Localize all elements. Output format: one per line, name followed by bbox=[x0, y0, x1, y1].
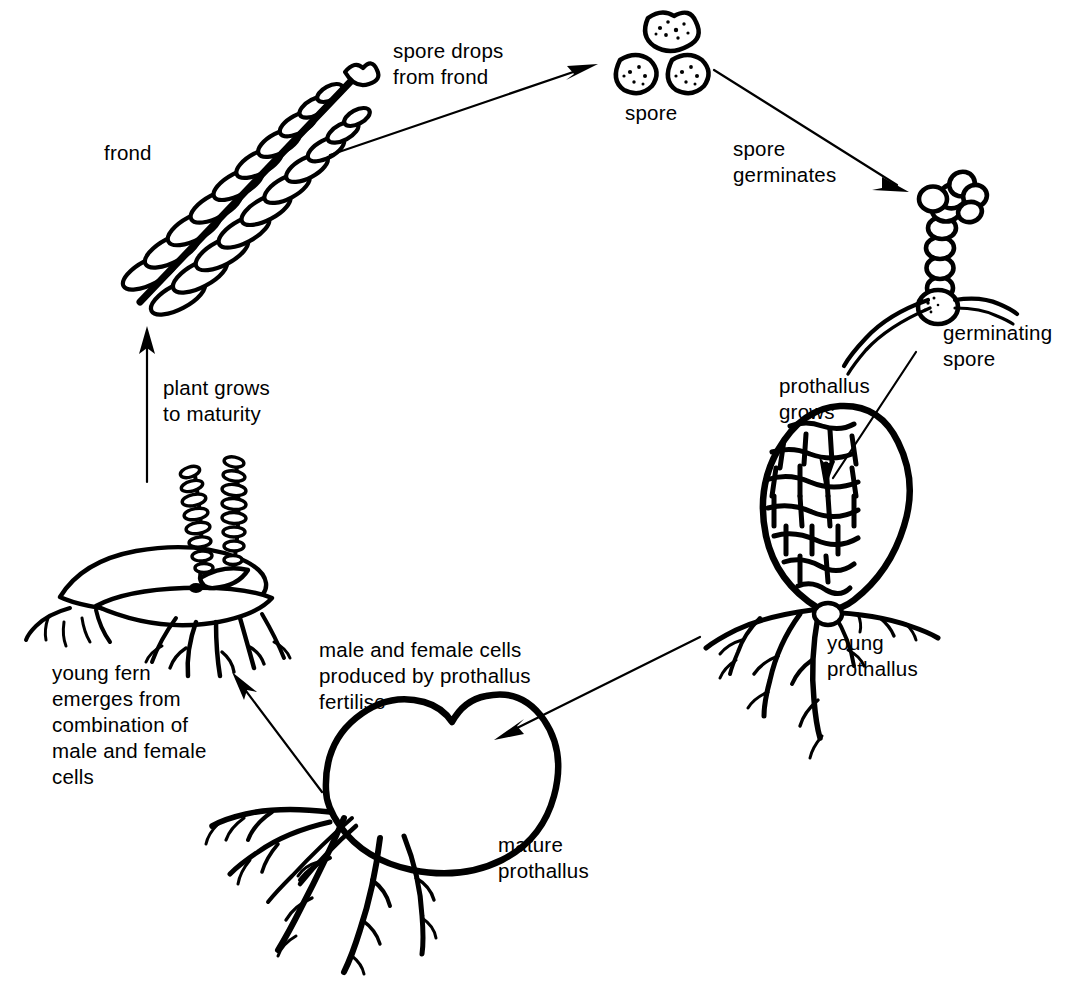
spore-upper bbox=[645, 12, 699, 51]
label-mature-prothallus-line2: prothallus bbox=[498, 859, 589, 882]
label-plant-grows-line2: to maturity bbox=[163, 402, 261, 425]
arrow-plant-grows bbox=[139, 326, 155, 482]
label-fertilise-line3: fertilise bbox=[319, 690, 386, 713]
label-spore-drops-line2: from frond bbox=[393, 65, 488, 88]
young-fern-illustration bbox=[26, 455, 290, 676]
frond-illustration bbox=[118, 63, 379, 321]
label-germinating-spore-line2: spore bbox=[943, 347, 995, 370]
label-spore-germinates-line2: germinates bbox=[733, 163, 836, 186]
label-plant-grows-to-maturity: plant growsto maturity bbox=[163, 375, 270, 427]
label-young-fern-line5: cells bbox=[52, 765, 94, 788]
label-fertilise-line1: male and female cells bbox=[319, 638, 521, 661]
label-young-fern-line3: combination of bbox=[52, 713, 188, 736]
label-young-prothallus-line1: young bbox=[827, 631, 884, 654]
label-germinating-spore-line1: germinating bbox=[943, 321, 1052, 344]
young-prothallus-illustration bbox=[706, 406, 938, 758]
label-spore-germinates-line1: spore bbox=[733, 137, 785, 160]
germinating-spore-body bbox=[918, 290, 958, 324]
young-fern-growing-point bbox=[189, 583, 203, 593]
spore-lower-left bbox=[616, 55, 657, 93]
label-mature-prothallus-line1: mature bbox=[498, 833, 563, 856]
young-prothallus-foot bbox=[814, 603, 842, 625]
germinating-spore-cell-chain bbox=[919, 167, 990, 299]
label-young-fern-line1: young fern bbox=[52, 661, 151, 684]
arrow-young-fern-emerges bbox=[232, 672, 322, 792]
label-spore-drops-from-frond: spore dropsfrom frond bbox=[393, 38, 503, 90]
label-fertilise-line2: produced by prothallus bbox=[319, 664, 531, 687]
label-young-fern-line4: male and female bbox=[52, 739, 207, 762]
frond-rachis bbox=[140, 80, 352, 302]
label-prothallus-grows-line2: grows bbox=[779, 400, 835, 423]
label-spore: spore bbox=[625, 100, 677, 126]
label-germinating-spore: germinatingspore bbox=[943, 320, 1052, 372]
label-frond: frond bbox=[104, 140, 152, 166]
label-mature-prothallus: matureprothallus bbox=[498, 832, 589, 884]
fern-life-cycle-diagram: frond spore dropsfrom frond spore sporeg… bbox=[0, 0, 1079, 1003]
label-prothallus-grows-line1: prothallus bbox=[779, 374, 870, 397]
label-spore-germinates: sporegerminates bbox=[733, 136, 836, 188]
label-plant-grows-line1: plant grows bbox=[163, 376, 270, 399]
label-young-prothallus-line2: prothallus bbox=[827, 657, 918, 680]
label-young-fern-line2: emerges from bbox=[52, 687, 181, 710]
label-prothallus-grows: prothallusgrows bbox=[779, 373, 870, 425]
label-fertilise: male and female cellsproduced by prothal… bbox=[319, 637, 531, 715]
label-young-prothallus: youngprothallus bbox=[827, 630, 918, 682]
label-young-fern: young fernemerges fromcombination ofmale… bbox=[52, 660, 207, 790]
spore-illustration bbox=[616, 12, 709, 93]
label-spore-drops-line1: spore drops bbox=[393, 39, 503, 62]
spore-lower-right bbox=[668, 55, 709, 93]
